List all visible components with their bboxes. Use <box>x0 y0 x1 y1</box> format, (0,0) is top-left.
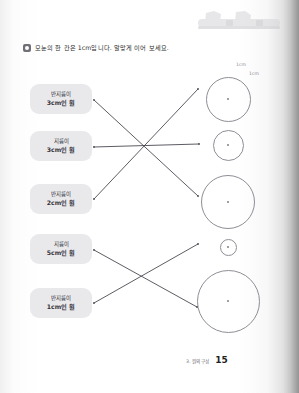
link-4 <box>94 250 197 307</box>
connector-lines <box>0 0 283 376</box>
page-edge-shadow <box>283 0 299 393</box>
page-footer: 3. 원의 구성 15 <box>186 355 228 365</box>
link-3 <box>94 89 198 199</box>
worksheet-page: 모눈의 한 칸은 1cm입니다. 알맞게 이어 보세요. 1cm 1cm 반지름… <box>0 0 299 393</box>
link-1 <box>94 100 198 196</box>
page-sheet: 모눈의 한 칸은 1cm입니다. 알맞게 이어 보세요. 1cm 1cm 반지름… <box>0 0 283 376</box>
page-number: 15 <box>215 355 228 365</box>
link-5 <box>94 244 198 303</box>
footer-chapter-label: 3. 원의 구성 <box>186 358 209 365</box>
link-2 <box>94 144 199 147</box>
